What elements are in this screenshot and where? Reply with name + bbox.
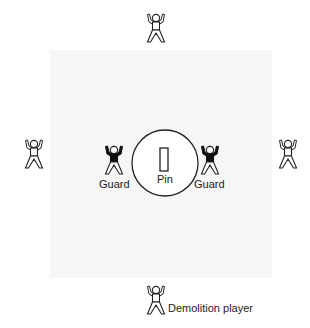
demolition-player xyxy=(148,286,165,314)
diagram-canvas xyxy=(0,0,310,328)
guard-left-label: Guard xyxy=(99,178,130,190)
pin-label: Pin xyxy=(157,173,173,185)
guard-right-label: Guard xyxy=(194,178,225,190)
guard-right xyxy=(202,146,219,174)
player-left xyxy=(26,140,43,168)
guard-left xyxy=(106,146,123,174)
demolition-player-label: Demolition player xyxy=(168,302,253,314)
pin-icon xyxy=(160,148,168,171)
player-right xyxy=(280,140,297,168)
player-top xyxy=(148,14,165,42)
